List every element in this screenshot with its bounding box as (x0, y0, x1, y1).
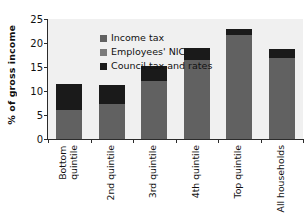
x-tick-label: Bottom quintile (47, 145, 90, 215)
bar-segment-income-tax (56, 129, 82, 139)
council-swatch-icon (100, 63, 107, 70)
y-tick-mark (44, 67, 48, 68)
x-tick-mark (303, 139, 304, 143)
y-tick-label: 5 (37, 110, 43, 121)
x-tick-label-text: Top quintile (233, 145, 244, 198)
x-tick-label-text: All households (276, 145, 287, 212)
bar-segment-employees-nic (141, 81, 167, 110)
y-tick-label: 0 (37, 134, 43, 145)
legend-item-label: Council tax and rates (111, 61, 212, 71)
legend-item[interactable]: Employees' NIC (100, 46, 212, 58)
bar-segment-income-tax (226, 71, 252, 139)
x-tick-mark (133, 139, 134, 143)
y-tick-mark (44, 43, 48, 44)
bar-segment-council-tax (56, 84, 82, 110)
bar-segment-council-tax (269, 49, 295, 58)
plot-area: 0510152025 Income taxEmployees' NICCounc… (47, 19, 303, 140)
y-tick-label: 20 (30, 38, 43, 49)
stacked-bar[interactable] (141, 66, 167, 139)
chart-figure: % of gross income 0510152025 Income taxE… (0, 0, 308, 218)
x-tick-label: 4th quintile (175, 145, 218, 215)
bar-segment-employees-nic (99, 104, 125, 124)
bar-segment-income-tax (141, 110, 167, 139)
x-tick-mark (48, 139, 49, 143)
x-tick-mark (261, 139, 262, 143)
x-tick-label: All households (260, 145, 303, 215)
income-swatch-icon (100, 35, 107, 42)
x-tick-label: 3rd quintile (132, 145, 175, 215)
y-axis-title: % of gross income (0, 0, 22, 150)
y-tick-mark (44, 19, 48, 20)
legend-item[interactable]: Council tax and rates (100, 60, 212, 72)
x-tick-label-text: Bottom quintile (58, 145, 79, 180)
y-axis-title-text: % of gross income (6, 25, 17, 125)
nic-swatch-icon (100, 49, 107, 56)
stacked-bar[interactable] (56, 84, 82, 139)
y-tick-mark (44, 91, 48, 92)
bar-segment-income-tax (99, 124, 125, 139)
y-tick-label: 25 (30, 14, 43, 25)
bar-segment-employees-nic (56, 110, 82, 129)
chart-legend: Income taxEmployees' NICCouncil tax and … (100, 32, 212, 72)
x-tick-label-text: 4th quintile (191, 145, 202, 198)
x-tick-label: 2nd quintile (90, 145, 133, 215)
stacked-bar[interactable] (269, 49, 295, 139)
bar-segment-employees-nic (269, 58, 295, 93)
x-tick-label-text: 3rd quintile (148, 145, 159, 198)
x-tick-mark (91, 139, 92, 143)
x-tick-label: Top quintile (217, 145, 260, 215)
y-tick-mark (44, 115, 48, 116)
x-tick-label-text: 2nd quintile (106, 145, 117, 200)
legend-item-label: Income tax (111, 33, 164, 43)
bar-segment-council-tax (99, 85, 125, 104)
legend-item-label: Employees' NIC (111, 47, 185, 57)
x-tick-mark (176, 139, 177, 143)
bar-segment-income-tax (269, 93, 295, 139)
legend-item[interactable]: Income tax (100, 32, 212, 44)
stacked-bar[interactable] (226, 29, 252, 139)
stacked-bar[interactable] (99, 85, 125, 139)
bar-segment-employees-nic (226, 35, 252, 71)
y-tick-label: 15 (30, 62, 43, 73)
x-tick-mark (218, 139, 219, 143)
y-tick-label: 10 (30, 86, 43, 97)
bar-segment-income-tax (184, 94, 210, 139)
